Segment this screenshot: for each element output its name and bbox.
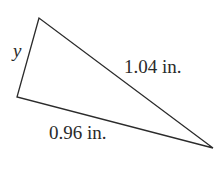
triangle-diagram: y 1.04 in. 0.96 in. [0, 0, 216, 179]
triangle-outline [17, 18, 213, 148]
side-label-hypotenuse: 1.04 in. [124, 57, 182, 76]
triangle-shape [0, 0, 216, 179]
side-label-y: y [13, 41, 21, 60]
side-label-bottom: 0.96 in. [49, 123, 107, 142]
